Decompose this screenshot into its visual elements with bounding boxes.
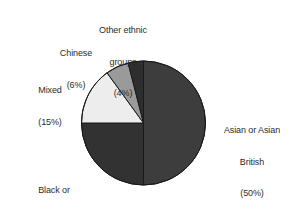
pie-label-black-or-black-british: Black or Black British (25%) [8,164,100,218]
pie-label-black-or-black-british-line2: Black British [8,217,100,219]
pie-label-mixed-value: (15%) [26,117,74,128]
pie-label-black-or-black-british-line1: Black or [8,185,100,196]
pie-label-asian-or-asian-british-value: (50%) [212,188,292,199]
pie-label-mixed-line1: Mixed [26,85,74,96]
pie-label-asian-or-asian-british-line2: British [212,157,292,168]
pie-chart-figure: Other ethnic groups (4%) Chinese (6%) Mi… [0,0,298,218]
pie-label-asian-or-asian-british: Asian or Asian British (50%) [212,104,292,218]
pie-label-chinese-line1: Chinese [50,48,102,59]
pie-label-mixed: Mixed (15%) [26,64,74,148]
pie-label-asian-or-asian-british-line1: Asian or Asian [212,125,292,136]
